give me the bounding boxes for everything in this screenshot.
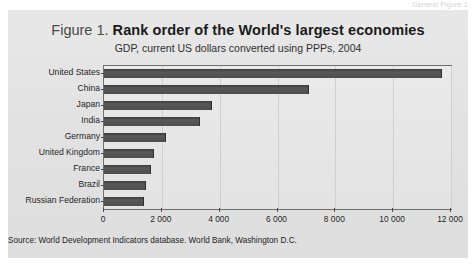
category-label: United Kingdom bbox=[39, 148, 100, 157]
bar bbox=[104, 197, 144, 206]
gridline bbox=[451, 66, 452, 209]
value-tick bbox=[334, 208, 335, 212]
figure-number: Figure 1. bbox=[51, 22, 108, 38]
category-label: France bbox=[73, 164, 100, 173]
category-tick bbox=[101, 89, 104, 90]
bar-row bbox=[104, 181, 451, 190]
category-tick bbox=[101, 121, 104, 122]
bar-row bbox=[104, 117, 451, 126]
value-tick-label: 6 000 bbox=[252, 214, 302, 224]
figure-panel: Figure 1. Rank order of the World's larg… bbox=[8, 10, 468, 258]
bar-row bbox=[104, 165, 451, 174]
bar bbox=[104, 117, 200, 126]
value-tick bbox=[450, 208, 451, 212]
bar-row bbox=[104, 85, 451, 94]
bar bbox=[104, 69, 442, 78]
value-tick-label: 12 000 bbox=[425, 214, 475, 224]
bar bbox=[104, 101, 212, 110]
category-label: Russian Federation bbox=[25, 196, 100, 205]
value-tick-label: 8 000 bbox=[309, 214, 359, 224]
value-tick bbox=[392, 208, 393, 212]
bar bbox=[104, 181, 146, 190]
value-tick bbox=[277, 208, 278, 212]
value-tick-label: 4 000 bbox=[194, 214, 244, 224]
bar-row bbox=[104, 197, 451, 206]
category-tick bbox=[101, 105, 104, 106]
category-label: China bbox=[78, 84, 100, 93]
category-label: India bbox=[81, 116, 100, 125]
category-tick bbox=[101, 201, 104, 202]
category-label: Japan bbox=[77, 100, 100, 109]
source-note: Source: World Development Indicators dat… bbox=[8, 236, 297, 245]
value-tick bbox=[219, 208, 220, 212]
bar-row bbox=[104, 133, 451, 142]
value-tick bbox=[103, 208, 104, 212]
figure-subtitle: GDP, current US dollars converted using … bbox=[8, 42, 468, 54]
bar bbox=[104, 165, 151, 174]
bar-row bbox=[104, 101, 451, 110]
category-tick bbox=[101, 185, 104, 186]
page-header-fragment: General Figure 1. bbox=[355, 0, 470, 9]
value-tick-label: 10 000 bbox=[367, 214, 417, 224]
category-tick bbox=[101, 137, 104, 138]
category-label: Germany bbox=[65, 132, 100, 141]
plot-area bbox=[103, 65, 452, 210]
bar bbox=[104, 133, 166, 142]
value-tick-label: 2 000 bbox=[136, 214, 186, 224]
category-tick bbox=[101, 153, 104, 154]
figure-title: Figure 1. Rank order of the World's larg… bbox=[8, 22, 468, 38]
value-tick-label: 0 bbox=[78, 214, 128, 224]
category-axis-labels: United StatesChinaJapanIndiaGermanyUnite… bbox=[8, 65, 100, 210]
bar-row bbox=[104, 69, 451, 78]
figure-title-text: Rank order of the World's largest econom… bbox=[113, 22, 425, 38]
value-tick bbox=[161, 208, 162, 212]
category-label: United States bbox=[48, 68, 100, 77]
value-axis: 02 0004 0006 0008 00010 00012 000 bbox=[103, 208, 452, 230]
figure-page: General Figure 1. Figure 1. Rank order o… bbox=[0, 0, 476, 273]
category-tick bbox=[101, 73, 104, 74]
bar bbox=[104, 149, 154, 158]
category-tick bbox=[101, 169, 104, 170]
bar-row bbox=[104, 149, 451, 158]
bar bbox=[104, 85, 309, 94]
category-label: Brazil bbox=[79, 180, 101, 189]
